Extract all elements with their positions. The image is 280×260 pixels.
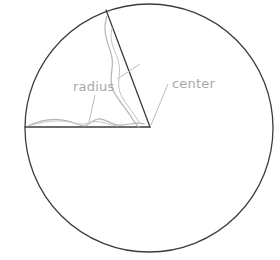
radius-leader-lower <box>89 95 95 122</box>
diagram-canvas: radius center <box>0 0 280 260</box>
circle-outline <box>25 4 273 252</box>
center-label: center <box>172 76 215 91</box>
sketch-stroke-upper-1 <box>105 16 139 127</box>
radius-leader-upper <box>117 64 140 79</box>
sketch-stroke-lower-1 <box>28 119 144 126</box>
circle-diagram: radius center <box>0 0 280 260</box>
sketch-stroke-lower-2 <box>32 121 118 126</box>
center-leader <box>151 84 168 125</box>
radius-label: radius <box>73 79 114 94</box>
